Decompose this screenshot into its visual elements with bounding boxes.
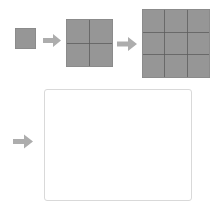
grid-cell [16,29,35,48]
grid-cell [143,10,164,32]
grid-cell [188,55,209,77]
grid-cell [143,33,164,55]
square-3x3 [142,9,210,78]
grid-cell [188,33,209,55]
arrow-right-icon [13,133,33,150]
grid-cell [67,20,89,43]
empty-canvas-rectangle [44,89,192,201]
grid-cell [165,55,186,77]
grid-cell [90,20,112,43]
square-2x2 [66,19,113,67]
diagram-stage [0,0,221,214]
arrow-right-icon [43,33,61,48]
square-1x1 [15,28,36,49]
arrow-right-icon [117,36,137,52]
grid-cell [143,55,164,77]
grid-cell [165,33,186,55]
grid-cell [188,10,209,32]
grid-cell [90,44,112,67]
grid-cell [165,10,186,32]
grid-cell [67,44,89,67]
